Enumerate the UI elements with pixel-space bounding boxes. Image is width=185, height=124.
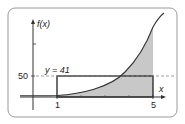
x-tick-label-5: 5 <box>151 100 156 110</box>
x-axis-label: x <box>158 84 164 94</box>
mean-value-diagram: f(x) x 50 y = 41 1 5 <box>0 0 185 124</box>
x-tick-label-1: 1 <box>55 100 60 110</box>
mean-value-label: y = 41 <box>44 65 70 75</box>
y-axis-label: f(x) <box>37 19 50 29</box>
y-tick-label-50: 50 <box>18 71 28 81</box>
